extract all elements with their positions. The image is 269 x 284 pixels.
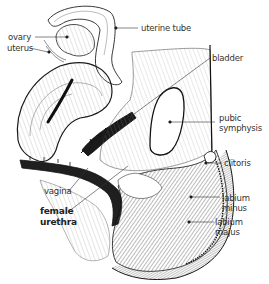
label-clitoris: clitoris xyxy=(224,158,251,168)
label-vagina: vagina xyxy=(44,186,71,196)
label-labium-minus-line1: labium xyxy=(222,193,250,203)
label-labium-minus: labium minus xyxy=(222,193,250,213)
ovary-shape xyxy=(44,24,95,62)
label-female-urethra-line2: urethra xyxy=(40,217,77,228)
label-female-urethra: female urethra xyxy=(40,206,77,227)
label-bladder: bladder xyxy=(212,53,243,63)
label-female-urethra-line1: female xyxy=(40,206,77,217)
label-pubic-symphysis: pubic symphysis xyxy=(219,113,262,133)
label-pubic-symphysis-line1: pubic xyxy=(219,113,262,123)
label-uterine-tube: uterine tube xyxy=(141,23,191,33)
label-ovary: ovary xyxy=(8,32,31,42)
label-labium-majus-line1: labium xyxy=(215,217,243,227)
label-pubic-symphysis-line2: symphysis xyxy=(219,123,262,133)
anatomy-diagram: ovary uterine tube uterus bladder pubic … xyxy=(0,0,269,284)
label-labium-minus-line2: minus xyxy=(222,203,250,213)
label-labium-majus: labium majus xyxy=(215,217,243,237)
label-uterus: uterus xyxy=(7,43,33,53)
anatomy-illustration xyxy=(0,0,269,284)
label-labium-majus-line2: majus xyxy=(215,227,243,237)
